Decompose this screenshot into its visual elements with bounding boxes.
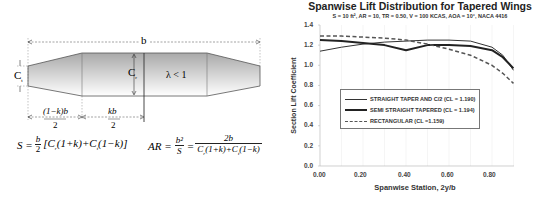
y-tick: 0.2 bbox=[304, 142, 313, 149]
legend-item-semi-straight: SEMI STRAIGHT TAPERED (CL = 1.194) bbox=[345, 105, 475, 115]
x-tick: 0.00 bbox=[313, 171, 326, 178]
dim-left-den: 2 bbox=[53, 120, 58, 130]
lift-distribution-chart: Spanwise Lift Distribution for Tapered W… bbox=[270, 0, 514, 197]
thin-line-swatch bbox=[345, 99, 367, 100]
taper-ratio-label: λ < 1 bbox=[166, 69, 187, 80]
y-tick: 1.2 bbox=[304, 41, 313, 48]
dim-mid-den: 2 bbox=[111, 120, 116, 130]
thick-line-swatch bbox=[345, 109, 367, 111]
dim-mid-num: kb bbox=[108, 106, 117, 116]
y-tick: 0.4 bbox=[304, 121, 313, 128]
legend-item-rectangular: RECTANGULAR (CL =1.159) bbox=[345, 116, 444, 126]
x-tick: 0.80 bbox=[483, 171, 496, 178]
span-label: b bbox=[141, 34, 147, 46]
y-tick: 1.0 bbox=[304, 61, 313, 68]
root-chord-label: Cr bbox=[128, 66, 137, 80]
y-tick: 1.4 bbox=[304, 21, 313, 28]
legend-item-straight-taper: STRAIGHT TAPER AND C/2 (CL = 1.190) bbox=[345, 94, 475, 104]
dashed-line-swatch bbox=[345, 121, 367, 122]
x-tick: 0.20 bbox=[354, 171, 367, 178]
wing-planform-svg bbox=[0, 0, 270, 197]
x-tick: 0.60 bbox=[441, 171, 454, 178]
series-line bbox=[320, 40, 514, 70]
series-line bbox=[320, 40, 514, 68]
aspect-ratio-formula: AR = b²S = 2bCr(1+k)+Ct(1−k) bbox=[148, 133, 260, 159]
tip-chord-label: Ct bbox=[14, 69, 23, 83]
tapered-wing-diagram: b Ct Cr λ < 1 (1−k)b 2 kb 2 S = b2 [Cr(1… bbox=[0, 0, 270, 197]
series-line bbox=[320, 36, 514, 83]
y-tick: 0.8 bbox=[304, 81, 313, 88]
chart-legend: STRAIGHT TAPER AND C/2 (CL = 1.190) SEMI… bbox=[340, 89, 480, 129]
y-tick: 0.0 bbox=[304, 162, 313, 169]
dim-left-num: (1−k)b bbox=[43, 106, 68, 116]
y-tick: 0.6 bbox=[304, 101, 313, 108]
x-tick: 0.40 bbox=[398, 171, 411, 178]
area-formula: S = b2 [Cr(1+k)+Ct(1−k)] bbox=[17, 135, 127, 154]
